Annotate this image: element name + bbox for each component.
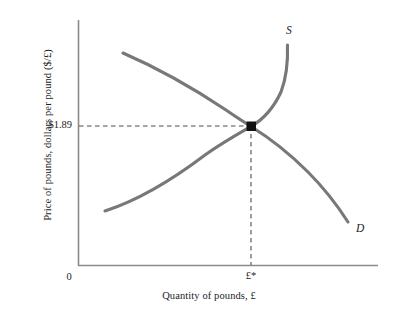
demand-curve-label: D xyxy=(356,223,364,235)
supply-demand-figure: Price of pounds, dollars per pound ($/£)… xyxy=(0,0,418,313)
plot-area xyxy=(0,0,418,313)
supply-curve xyxy=(105,45,288,211)
x-axis-title: Quantity of pounds, £ xyxy=(0,291,418,302)
price-tick-label: $1.89 xyxy=(28,120,72,131)
quantity-tick-label: £* xyxy=(234,271,268,282)
origin-label: 0 xyxy=(60,272,78,283)
equilibrium-point-marker xyxy=(247,122,257,132)
demand-curve xyxy=(123,53,348,222)
supply-curve-label: S xyxy=(286,25,292,37)
y-axis-title: Price of pounds, dollars per pound ($/£) xyxy=(40,15,56,255)
